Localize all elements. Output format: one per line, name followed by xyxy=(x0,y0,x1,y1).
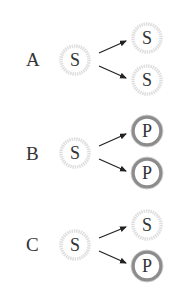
target-node-bottom: S xyxy=(133,66,161,94)
arrow-icon xyxy=(99,227,126,238)
row-b: B S P P xyxy=(26,115,163,189)
arrow-icon xyxy=(99,159,126,171)
target-node-top: P xyxy=(131,115,163,147)
target-node-top: S xyxy=(133,211,161,239)
row-label: C xyxy=(26,234,39,255)
arrow-icon xyxy=(99,134,126,146)
node-label: S xyxy=(70,235,80,255)
node-label: P xyxy=(142,256,152,276)
node-label: P xyxy=(142,121,152,141)
target-node-bottom: P xyxy=(131,157,163,189)
node-label: S xyxy=(70,50,80,70)
division-diagram: A S S S B S P xyxy=(0,0,178,293)
row-a: A S S S xyxy=(26,24,161,94)
node-label: P xyxy=(142,163,152,183)
source-node: S xyxy=(61,139,89,167)
row-label: A xyxy=(26,49,40,70)
row-c: C S S P xyxy=(26,211,163,282)
arrow-icon xyxy=(99,251,126,263)
target-node-top: S xyxy=(133,24,161,52)
node-label: S xyxy=(142,28,152,48)
source-node: S xyxy=(61,231,89,259)
node-label: S xyxy=(142,70,152,90)
node-label: S xyxy=(70,143,80,163)
node-label: S xyxy=(142,215,152,235)
source-node: S xyxy=(61,46,89,74)
target-node-bottom: P xyxy=(131,250,163,282)
row-label: B xyxy=(26,143,39,164)
arrow-icon xyxy=(99,66,126,78)
arrow-icon xyxy=(99,41,126,53)
